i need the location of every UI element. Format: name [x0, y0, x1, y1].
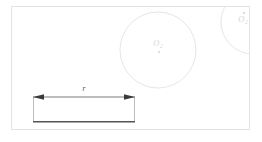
- circle-main-center-dot: [158, 51, 160, 53]
- circle-main-label-subscript: 2: [160, 43, 163, 49]
- circle-main-label-base: O: [153, 38, 159, 48]
- figure-canvas: O2 O2 r: [0, 0, 262, 142]
- canvas-background: [0, 0, 262, 142]
- circle-corner-label-subscript: 2: [245, 19, 248, 25]
- dimension-label: r: [83, 84, 86, 93]
- circle-corner-label-base: O: [238, 14, 244, 24]
- diagram-svg: O2 O2 r: [0, 0, 262, 142]
